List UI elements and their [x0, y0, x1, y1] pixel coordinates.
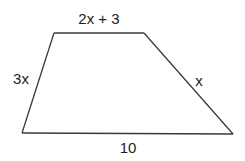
left-side-label: 3x: [13, 70, 29, 87]
right-side-label: x: [195, 72, 203, 89]
right-side: [144, 33, 233, 134]
bottom-side-label: 10: [120, 139, 137, 156]
trapezoid-diagram: 2x + 3 3x x 10: [0, 0, 245, 161]
top-side-label: 2x + 3: [78, 10, 119, 27]
bottom-side: [22, 133, 233, 134]
